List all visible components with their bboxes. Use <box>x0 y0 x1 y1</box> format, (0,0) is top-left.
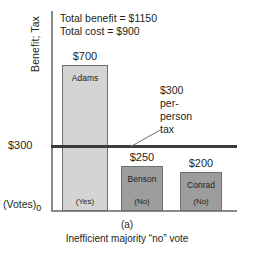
bar-conrad[interactable]: Conrad (No) <box>180 172 222 211</box>
tax-reference-line <box>51 145 237 148</box>
caption-panel-letter: (a) <box>0 218 254 232</box>
bar-benson-name: Benson <box>122 174 162 184</box>
bar-conrad-value: $200 <box>180 157 222 169</box>
bar-adams-value: $700 <box>62 50 108 62</box>
bar-benson-value: $250 <box>121 151 163 163</box>
total-cost-text: Total cost = $900 <box>60 25 157 38</box>
tax-annotation-line-1: $300 <box>160 84 192 97</box>
bar-adams[interactable]: Adams (Yes) <box>62 65 108 211</box>
bar-adams-vote: (Yes) <box>63 197 107 206</box>
figure-panel-a: Benefit; Tax Total benefit = $1150 Total… <box>0 0 254 254</box>
bar-adams-name: Adams <box>63 73 107 83</box>
tax-annotation-line-3: person <box>160 110 192 123</box>
y-axis-line <box>51 11 53 212</box>
bar-benson[interactable]: Benson (No) <box>121 166 163 211</box>
tax-annotation: $300 per- person tax <box>160 84 192 136</box>
total-benefit-text: Total benefit = $1150 <box>60 12 157 25</box>
bar-conrad-vote: (No) <box>181 197 221 206</box>
y-tick-label-votes: (Votes)0 <box>3 198 41 213</box>
y-axis-title: Benefit; Tax <box>29 2 41 86</box>
tax-annotation-line-4: tax <box>160 123 192 136</box>
votes-zero: 0 <box>36 203 41 213</box>
tax-annotation-line-2: per- <box>160 97 192 110</box>
votes-text: (Votes) <box>3 198 36 210</box>
y-tick-label-300: $300 <box>8 139 32 151</box>
totals-annotation: Total benefit = $1150 Total cost = $900 <box>60 12 157 38</box>
bar-conrad-name: Conrad <box>181 180 221 190</box>
bar-benson-vote: (No) <box>122 197 162 206</box>
caption-text: Inefficient majority “no” vote <box>0 232 254 246</box>
figure-caption: (a) Inefficient majority “no” vote <box>0 218 254 246</box>
